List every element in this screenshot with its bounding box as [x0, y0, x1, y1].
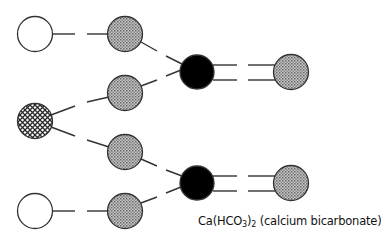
- hydrogen-atom-bottom: [18, 194, 53, 229]
- atoms: [18, 17, 309, 229]
- oxygen-atom-1: [108, 17, 143, 52]
- calcium-atom: [18, 104, 53, 139]
- caption-suffix: (calcium bicarbonate): [256, 214, 381, 228]
- caption-prefix: Ca(HCO: [198, 214, 242, 228]
- oxygen-atom-3: [108, 135, 143, 170]
- diagram-caption: Ca(HCO3)2 (calcium bicarbonate): [198, 214, 381, 229]
- oxygen-atom-4: [108, 194, 143, 229]
- bonds: [51, 34, 275, 211]
- oxygen-atom-6: [274, 166, 309, 201]
- carbon-atom-2: [180, 166, 214, 200]
- carbon-atom-1: [180, 55, 214, 89]
- oxygen-atom-2: [108, 76, 143, 111]
- hydrogen-atom-top: [18, 17, 53, 52]
- oxygen-atom-5: [274, 55, 309, 90]
